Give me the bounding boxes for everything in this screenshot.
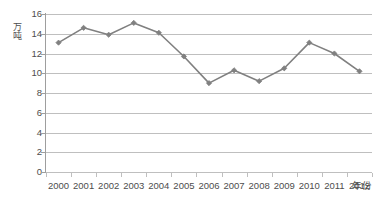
y-tick-label: 2	[22, 147, 42, 157]
x-tick-label: 2005	[173, 180, 194, 192]
data-series	[46, 14, 372, 172]
y-tick-mark	[41, 113, 45, 114]
x-tick-mark	[121, 173, 122, 177]
x-tick-label: 2006	[198, 180, 219, 192]
y-tick-label: 0	[22, 167, 42, 177]
y-tick-label: 6	[22, 108, 42, 118]
y-tick-mark	[41, 152, 45, 153]
x-tick-label: 2008	[249, 180, 270, 192]
x-tick-mark	[46, 173, 47, 177]
x-tick-label: 2004	[148, 180, 169, 192]
x-tick-label: 2009	[274, 180, 295, 192]
y-axis-title: 万吨	[8, 22, 22, 40]
x-tick-mark	[372, 173, 373, 177]
y-axis-tick-labels: 0246810121416	[22, 0, 42, 204]
x-tick-label: 2002	[98, 180, 119, 192]
plot-area	[46, 14, 372, 172]
x-tick-mark	[71, 173, 72, 177]
y-tick-mark	[41, 54, 45, 55]
x-tick-mark	[297, 173, 298, 177]
x-tick-label: 2001	[73, 180, 94, 192]
y-tick-label: 8	[22, 88, 42, 98]
series-line	[59, 23, 360, 83]
y-tick-mark	[41, 133, 45, 134]
gridline	[46, 172, 372, 173]
y-tick-mark	[41, 34, 45, 35]
x-tick-mark	[146, 173, 147, 177]
x-tick-label: 2003	[123, 180, 144, 192]
x-tick-mark	[322, 173, 323, 177]
y-tick-label: 16	[22, 9, 42, 19]
y-tick-label: 14	[22, 29, 42, 39]
x-axis-title: 年份	[352, 180, 372, 192]
x-tick-mark	[96, 173, 97, 177]
x-tick-mark	[272, 173, 273, 177]
x-tick-mark	[247, 173, 248, 177]
x-tick-label: 2011	[324, 180, 344, 192]
y-tick-mark	[41, 14, 45, 15]
x-tick-mark	[196, 173, 197, 177]
y-tick-label: 4	[22, 128, 42, 138]
data-point-marker	[106, 32, 111, 37]
x-tick-mark	[347, 173, 348, 177]
x-tick-label: 2010	[299, 180, 320, 192]
data-point-marker	[131, 20, 136, 25]
line-chart: 万吨 0246810121416 20002001200220032004200…	[0, 0, 384, 204]
y-tick-mark	[41, 93, 45, 94]
x-axis-tick-labels: 2000200120022003200420052006200720082009…	[0, 180, 384, 196]
y-tick-mark	[41, 73, 45, 74]
y-tick-label: 10	[22, 68, 42, 78]
x-tick-mark	[171, 173, 172, 177]
y-tick-mark	[41, 172, 45, 173]
x-tick-mark	[222, 173, 223, 177]
x-tick-label: 2007	[223, 180, 244, 192]
y-tick-label: 12	[22, 49, 42, 59]
x-tick-label: 2000	[48, 180, 69, 192]
